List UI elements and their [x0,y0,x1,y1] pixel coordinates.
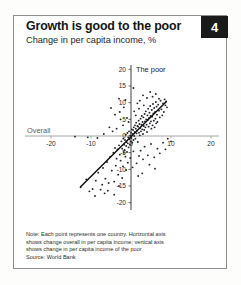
scatter-point [125,134,127,136]
scatter-point [154,118,156,120]
scatter-point [119,154,121,156]
scatter-point [128,121,130,123]
scatter-point [124,139,126,141]
scatter-point [140,118,142,120]
scatter-point [120,140,122,142]
scatter-point [150,128,152,130]
y-axis-label: The poor [136,65,166,74]
scatter-point [131,142,133,144]
scatter-point [123,106,125,108]
scatter-point [97,172,99,174]
y-tick-label: 5 [122,116,126,123]
scatter-point [164,148,166,150]
scatter-point [138,123,140,125]
scatter-point [149,122,151,124]
scatter-point [100,189,102,191]
scatter-point [137,175,139,177]
scatter-point [88,190,90,192]
scatter-point [134,124,136,126]
note-line-3: shows change in per capita income of the… [26,246,202,254]
scatter-point [148,164,150,166]
scatter-point [164,104,166,106]
scatter-point [114,114,116,116]
scatter-point [140,150,142,152]
scatter-point [158,98,160,100]
scatter-point [127,142,129,144]
scatter-point [152,96,154,98]
scatter-point [96,137,98,139]
y-tick-label: 20 [119,66,127,73]
scatter-point [133,110,135,112]
scatter-point [118,185,120,187]
scatter-point [127,162,129,164]
scatter-point [118,98,120,100]
x-tick-label: -10 [86,140,96,147]
scatter-point [112,130,114,132]
scatter-point [103,133,105,135]
scatter-point [121,148,123,150]
scatter-point [107,190,109,192]
scatter-point [135,122,137,124]
scatter-point [144,126,146,128]
scatter-point [139,134,141,136]
scatter-point [141,115,143,117]
scatter-point [138,132,140,134]
scatter-point [138,120,140,122]
scatter-point [126,132,128,134]
scatter-point [152,124,154,126]
y-tick-label: -15 [116,182,126,189]
scatter-point [126,117,128,119]
scatter-point [92,188,94,190]
scatter-point [101,184,103,186]
scatter-point [149,105,151,107]
scatter-point [140,130,142,132]
scatter-point [142,94,144,96]
x-tick-label: 20 [207,140,215,147]
scatter-point [110,107,112,109]
note-line-1: Note: Each point represents one country.… [26,231,202,239]
scatter-point [159,116,161,118]
scatter-point [149,91,151,93]
scatter-point [148,126,150,128]
scatter-point [144,146,146,148]
scatter-point [116,128,118,130]
scatter-point [126,151,128,153]
y-tick-label: -20 [116,199,126,206]
scatter-point [132,87,134,89]
scatter-point [155,93,157,95]
scatter-point [120,160,122,162]
scatter-point [146,131,148,133]
scatter-point [159,152,161,154]
scatter-point [160,100,162,102]
scatter-point [156,114,158,116]
scatter-point [142,133,144,135]
scatter-point [124,156,126,158]
scatter-point [143,104,145,106]
scatter-point [156,106,158,108]
scatter-point [113,181,115,183]
scatter-point [115,165,117,167]
scatter-point [153,120,155,122]
page-title: Growth is good to the poor [26,19,191,33]
scatter-point [121,177,123,179]
scatter-point [146,97,148,99]
scatter-point [153,107,155,109]
scatter-point [170,140,172,142]
scatter-point [132,150,134,152]
scatter-point [150,143,152,145]
scatter-point [153,156,155,158]
x-axis-label: Overall [27,126,51,135]
scatter-point [147,154,149,156]
scatter-point [124,99,126,101]
scatter-point [130,132,132,134]
scatter-point [151,109,153,111]
scatter-point [113,194,115,196]
y-tick-label: -10 [116,166,126,173]
scatter-point [162,142,164,144]
scatter-point [150,120,152,122]
scatter-point [141,172,143,174]
scatter-point [116,158,118,160]
scatter-point [157,104,159,106]
scatter-point [160,108,162,110]
page-subtitle: Change in per capita income, % [26,35,206,46]
